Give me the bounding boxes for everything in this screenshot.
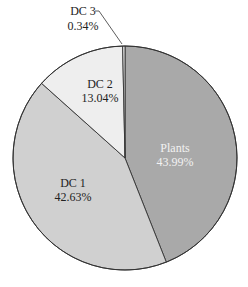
pie-chart: Plants 43.99% DC 1 42.63% DC 2 13.04% DC… [0, 0, 248, 287]
label-plants-value: 43.99% [157, 155, 194, 169]
label-dc3-name: DC 3 [70, 4, 96, 18]
label-plants-name: Plants [160, 141, 190, 155]
pie-slices [13, 46, 237, 270]
label-dc1-name: DC 1 [60, 176, 86, 190]
label-dc1-value: 42.63% [55, 190, 92, 204]
label-dc3-value: 0.34% [68, 19, 99, 33]
label-dc2-value: 13.04% [82, 91, 119, 105]
dc3-leader-line [95, 11, 122, 44]
label-dc2-name: DC 2 [87, 77, 113, 91]
